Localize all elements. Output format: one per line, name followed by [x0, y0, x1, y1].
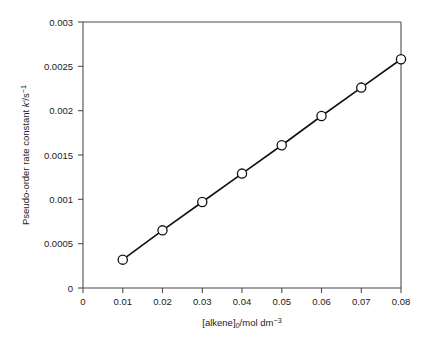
y-tick-label: 0.001 [49, 194, 73, 205]
y-tick-label: 0 [68, 283, 73, 294]
y-tick-label: 0.0005 [44, 238, 73, 249]
data-point-marker [237, 169, 246, 178]
data-point-marker [277, 141, 286, 150]
x-tick-label: 0.05 [273, 296, 292, 307]
x-axis-title: [alkene]0/mol dm−3 [202, 316, 281, 329]
y-tick-label: 0.003 [49, 17, 73, 28]
y-axis-title: Pseudo-order rate constant k′/s−1 [19, 85, 31, 225]
x-title-units-superscript: −3 [273, 316, 281, 325]
x-title-species: alkene [205, 317, 233, 328]
data-point-marker [158, 226, 167, 235]
x-tick-label: 0.04 [233, 296, 252, 307]
y-tick-label: 0.002 [49, 105, 73, 116]
x-axis-tick-labels: 0 0.01 0.02 0.03 0.04 0.05 0.06 0.07 0.0… [80, 296, 410, 307]
data-point-marker [198, 197, 207, 206]
data-point-marker [396, 55, 405, 64]
y-title-units-superscript: −1 [19, 85, 28, 93]
chart-figure: 0 0.0005 0.001 0.0015 0.002 0.0025 0.003… [0, 0, 426, 340]
y-tick-label: 0.0025 [44, 61, 73, 72]
x-tick-label: 0.02 [153, 296, 172, 307]
chart-background [0, 0, 426, 340]
x-tick-label: 0.08 [392, 296, 411, 307]
data-point-marker [118, 255, 127, 264]
x-tick-label: 0.07 [352, 296, 371, 307]
y-tick-label: 0.0015 [44, 150, 73, 161]
x-tick-label: 0 [80, 296, 85, 307]
line-chart: 0 0.0005 0.001 0.0015 0.002 0.0025 0.003… [0, 0, 426, 340]
x-tick-label: 0.06 [312, 296, 331, 307]
x-tick-label: 0.03 [193, 296, 212, 307]
y-title-text: Pseudo-order rate constant [20, 107, 31, 225]
data-point-marker [317, 111, 326, 120]
x-tick-label: 0.01 [114, 296, 133, 307]
data-point-marker [357, 83, 366, 92]
x-title-units: /mol dm [240, 317, 274, 328]
